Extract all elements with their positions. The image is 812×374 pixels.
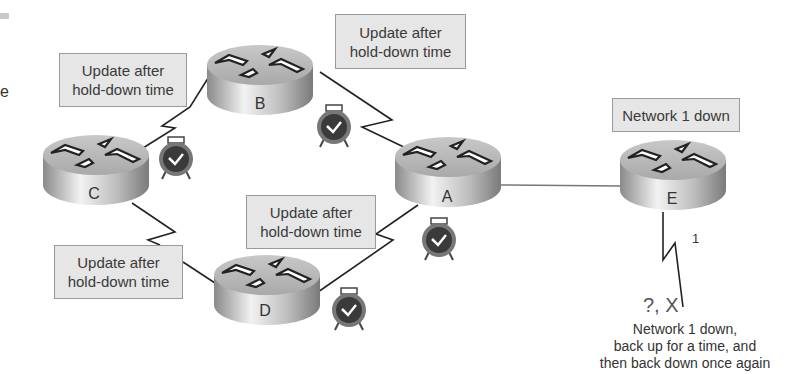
callout-line: hold-down time xyxy=(247,222,375,241)
router-b-label: B xyxy=(245,95,275,113)
router-e-label: E xyxy=(657,190,687,208)
footnote-line: then back down once again xyxy=(575,355,795,372)
callout-router-b: Update after hold-down time xyxy=(335,14,466,69)
link-c-d-lower xyxy=(183,262,215,283)
callout-router-e: Network 1 down xyxy=(612,98,740,132)
alarm-clock-icon xyxy=(422,218,456,260)
alarm-clock-icon xyxy=(159,137,193,179)
callout-router-a: Update after hold-down time xyxy=(246,195,376,249)
footnote-line: Network 1 down, xyxy=(575,321,795,338)
callout-line: hold-down time xyxy=(55,272,182,291)
link-e-network1 xyxy=(663,212,683,307)
alarm-clock-icon xyxy=(317,105,351,147)
link-label: 1 xyxy=(692,230,699,247)
callout-line: Update after xyxy=(60,61,186,80)
edge-fragment-text: e xyxy=(0,83,9,100)
callout-line: hold-down time xyxy=(60,80,186,99)
link-a-e xyxy=(500,185,620,186)
footnote-line: back up for a time, and xyxy=(575,338,795,355)
status-marks: ?, X xyxy=(643,297,679,314)
callout-line: hold-down time xyxy=(336,42,465,61)
callout-router-c: Update after hold-down time xyxy=(59,53,187,107)
callout-line: Update after xyxy=(247,203,375,222)
callout-line: Update after xyxy=(336,23,465,42)
link-c-d-upper xyxy=(132,203,175,245)
router-d-label: D xyxy=(250,302,280,320)
corner-mark xyxy=(0,13,9,19)
callout-line: Update after xyxy=(55,253,182,272)
alarm-clock-icon xyxy=(332,288,366,330)
footnote: Network 1 down, back up for a time, and … xyxy=(575,321,795,372)
router-a-label: A xyxy=(432,188,462,206)
callout-router-d: Update after hold-down time xyxy=(54,245,183,299)
router-c-label: C xyxy=(79,185,109,203)
